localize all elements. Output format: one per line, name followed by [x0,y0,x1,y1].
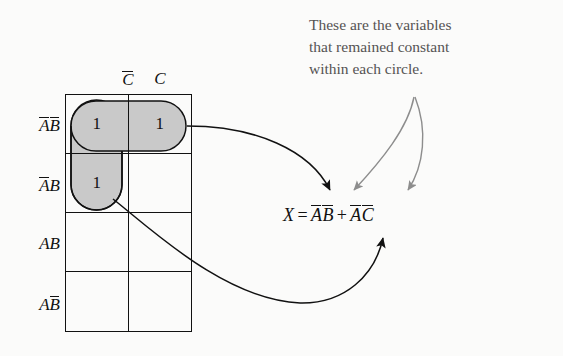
column-header-c-text: C [154,69,165,88]
row-header-ab-bar-bar: AB [2,116,60,134]
annotation-text: These are the variables that remained co… [309,14,554,80]
equation-plus: + [334,205,351,225]
kmap-diagram: C C AB AB AB AB 1 1 1 [0,0,563,356]
column-header-c: C [140,70,180,87]
equation-term2-part1: C [362,204,374,226]
kmap-cell-value-r2c1 [129,213,192,271]
row-header-3-part-1: B [50,295,60,313]
row-header-2-part-0: A [39,234,49,253]
equation-term2-part0: A [350,204,361,226]
kmap-cell-value-r0c0: 1 [66,95,128,153]
boolean-equation: X=AB+AC [283,204,374,226]
kmap-cell-r3c0[interactable] [66,272,129,331]
column-header-c-bar-text: C [122,70,133,88]
row-header-2-part-1: B [50,234,60,253]
annotation-line-2: that remained constant [309,36,554,58]
kmap-cell-value-r0c1: 1 [129,95,192,153]
row-header-1-part-0: A [39,176,49,194]
arrow-group1-to-term1 [187,126,330,190]
kmap-cell-r1c1[interactable] [129,154,192,213]
kmap-grid: 1 1 1 [65,94,192,332]
arrow-annotation-to-bbar [354,97,414,190]
kmap-cell-r0c1[interactable]: 1 [129,95,192,154]
equation-output: X [283,205,294,225]
row-header-0-part-1: B [50,116,60,134]
equation-equals: = [294,205,311,225]
kmap-cell-r2c1[interactable] [129,213,192,272]
equation-term1-part0: A [311,204,322,226]
kmap-cell-value-r1c0: 1 [66,154,128,212]
kmap-cell-r3c1[interactable] [129,272,192,331]
kmap-cell-value-r3c1 [129,272,192,331]
row-header-3-part-0: A [39,295,49,314]
equation-term1-part1: B [322,204,333,226]
kmap-cell-value-r1c1 [129,154,192,212]
kmap-cell-value-r3c0 [66,272,128,331]
annotation-line-3: within each circle. [309,58,554,80]
kmap-cell-r2c0[interactable] [66,213,129,272]
row-header-1-part-1: B [50,176,60,195]
kmap-cell-r0c0[interactable]: 1 [66,95,129,154]
kmap-cell-r1c0[interactable]: 1 [66,154,129,213]
row-header-a-bar-b: AB [2,176,60,194]
row-header-ab: AB [2,235,60,252]
annotation-line-1: These are the variables [309,14,554,36]
row-header-0-part-0: A [39,116,49,134]
kmap-cell-value-r2c0 [66,213,128,271]
row-header-a-b-bar: AB [2,295,60,313]
